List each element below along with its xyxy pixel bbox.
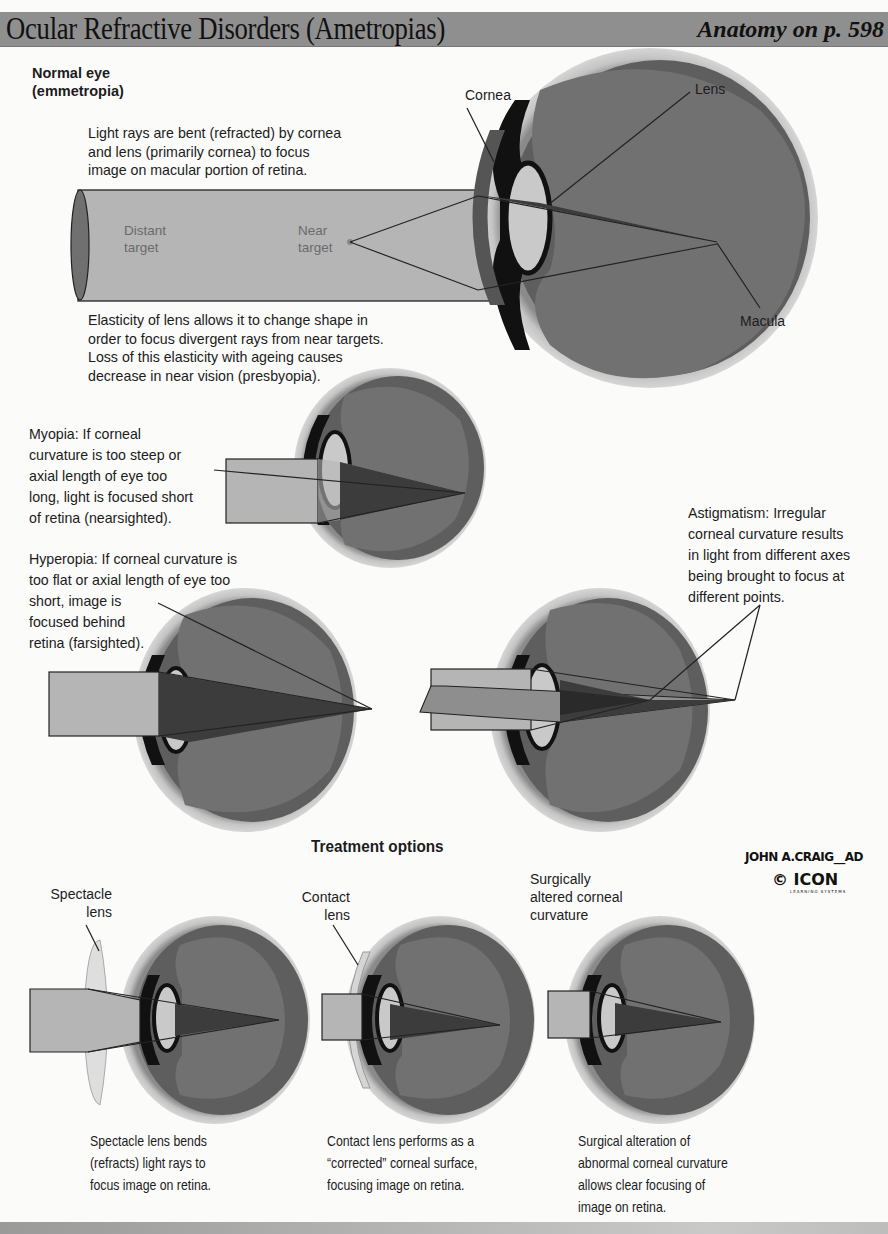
surgical-label: Surgically altered corneal curvature [530,870,623,924]
macula-label: Macula [740,312,785,330]
astigmatism-description: Astigmatism: Irregular corneal curvature… [688,503,850,608]
distant-target-label: Distant target [124,222,166,256]
spectacle-eye-illustration [30,916,310,1124]
beam-end [71,190,89,300]
cornea-label: Cornea [465,86,511,104]
surgical-caption: Surgical alteration of abnormal corneal … [578,1130,728,1218]
hyperopia-description: Hyperopia: If corneal curvature is too f… [29,549,237,654]
normal-eye-heading: Normal eye (emmetropia) [32,64,124,100]
publisher-mark: © ICON [772,870,838,889]
near-target-label: Near target [298,222,333,256]
footer-bar [0,1222,888,1234]
spectacle-caption: Spectacle lens bends (refracts) light ra… [90,1130,211,1196]
spectacle-lens-label: Spectacle lens [30,885,112,921]
astigmatism-eye-illustration [420,588,760,832]
contact-lens-eye-illustration [322,916,535,1124]
lens-label: Lens [695,80,725,98]
accommodation-note: Elasticity of lens allows it to change s… [88,311,384,385]
treatment-heading: Treatment options [311,838,444,856]
myopia-eye-illustration [214,368,486,568]
publisher-subtitle: LEARNING SYSTEMS [790,889,846,894]
artist-signature: JOHN A.CRAIG__AD [745,850,863,864]
normal-eye-description: Light rays are bent (refracted) by corne… [88,124,341,180]
lens [506,163,550,273]
myopia-description: Myopia: If corneal curvature is too stee… [29,424,193,529]
surgical-eye-illustration [548,916,755,1124]
contact-lens-caption: Contact lens performs as a “corrected” c… [327,1130,477,1196]
contact-lens-label: Contact lens [280,888,350,924]
icon-publisher-logo: © ICON LEARNING SYSTEMS [772,870,846,894]
